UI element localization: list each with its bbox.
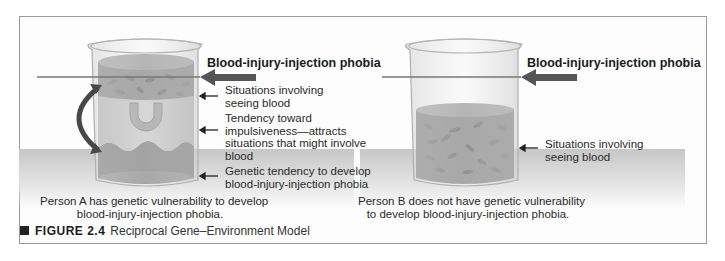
beaker-b-glass [405, 39, 522, 186]
pointer-arrows-b [520, 145, 538, 151]
figure-title: Reciprocal Gene–Environment Model [110, 224, 309, 238]
layer-label-b-blood: Situations involving seeing blood [545, 138, 643, 163]
figure-number: FIGURE 2.4 [35, 224, 105, 238]
pointer-arrows-a [200, 93, 218, 179]
threshold-arrow-b [521, 69, 577, 86]
caption-person-b: Person B does not have genetic vulnerabi… [358, 195, 578, 221]
figure-bullet-icon [20, 226, 29, 235]
threshold-label-b: Blood-injury-injection phobia [527, 57, 701, 70]
threshold-label-a: Blood-injury-injection phobia [207, 57, 381, 70]
beaker-b [405, 39, 522, 186]
caption-person-a: Person A has genetic vulnerability to de… [40, 195, 260, 221]
layer-label-a-impulsiveness: Tendency toward impulsiveness—attracts s… [225, 112, 366, 162]
beaker-a-glass [88, 39, 202, 186]
beaker-a [88, 39, 202, 186]
layer-label-a-blood: Situations involving seeing blood [225, 84, 323, 109]
layer-label-a-genetic: Genetic tendency to develop blood-injury… [225, 165, 371, 190]
figure-caption: FIGURE 2.4Reciprocal Gene–Environment Mo… [20, 224, 310, 238]
